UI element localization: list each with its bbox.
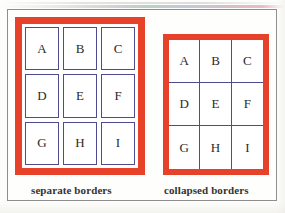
table-separate-cells: A B C D E F G H I [22, 24, 138, 168]
paper-shading-bottom [0, 201, 285, 213]
table-cell: B [200, 40, 231, 83]
table-cell: D [25, 74, 59, 117]
table-cell: F [232, 83, 263, 126]
table-cell: A [169, 40, 200, 83]
paper-shading-right [276, 0, 285, 213]
table-cell: E [200, 83, 231, 126]
figure-screenshot: A B C D E F G H I A B C D E F G H I sepa… [0, 0, 285, 213]
table-cell: C [232, 40, 263, 83]
table-cell: I [232, 126, 263, 169]
table-cell: C [101, 27, 135, 70]
table-collapsed-borders: A B C D E F G H I [163, 34, 269, 175]
table-cell: G [25, 122, 59, 165]
table-cell: B [63, 27, 97, 70]
table-cell: H [63, 122, 97, 165]
scan-artifact-gradient [0, 5, 285, 8]
table-cell: E [63, 74, 97, 117]
table-cell: D [169, 83, 200, 126]
table-cell: H [200, 126, 231, 169]
caption-collapsed-borders: collapsed borders [164, 184, 249, 196]
scan-artifact-line [0, 2, 285, 4]
table-separate-borders: A B C D E F G H I [15, 17, 145, 175]
caption-separate-borders: separate borders [31, 184, 112, 196]
table-cell: F [101, 74, 135, 117]
table-collapsed-cells: A B C D E F G H I [169, 40, 263, 169]
table-cell: G [169, 126, 200, 169]
table-cell: I [101, 122, 135, 165]
table-cell: A [25, 27, 59, 70]
